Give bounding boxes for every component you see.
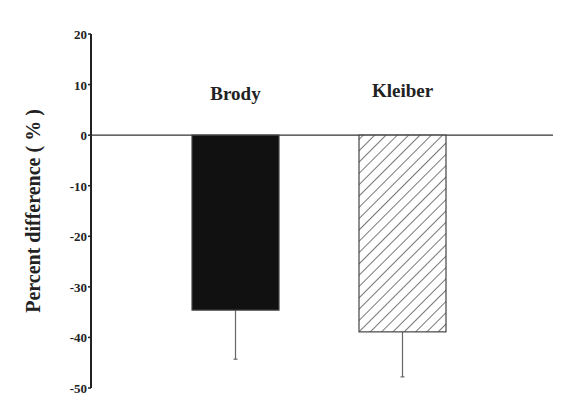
bar-brody bbox=[192, 135, 279, 310]
y-tick-label: -30 bbox=[70, 280, 87, 295]
y-tick-label: -20 bbox=[70, 229, 87, 244]
y-tick-label: 10 bbox=[74, 78, 87, 93]
y-tick-label: 20 bbox=[74, 27, 87, 42]
category-labels: BrodyKleiber bbox=[210, 80, 433, 104]
y-tick-label: 0 bbox=[81, 128, 88, 143]
y-tick-label: -50 bbox=[70, 381, 87, 396]
y-tick-label: -40 bbox=[70, 330, 87, 345]
category-label: Brody bbox=[210, 83, 261, 104]
y-axis: 20100-10-20-30-40-50 bbox=[70, 27, 553, 396]
bar-chart: 20100-10-20-30-40-50 BrodyKleiber Percen… bbox=[0, 0, 572, 412]
bars bbox=[192, 135, 446, 377]
y-tick-label: -10 bbox=[70, 179, 87, 194]
category-label: Kleiber bbox=[372, 80, 434, 101]
y-axis-label: Percent difference ( % ) bbox=[22, 109, 45, 313]
bar-kleiber bbox=[359, 135, 446, 332]
